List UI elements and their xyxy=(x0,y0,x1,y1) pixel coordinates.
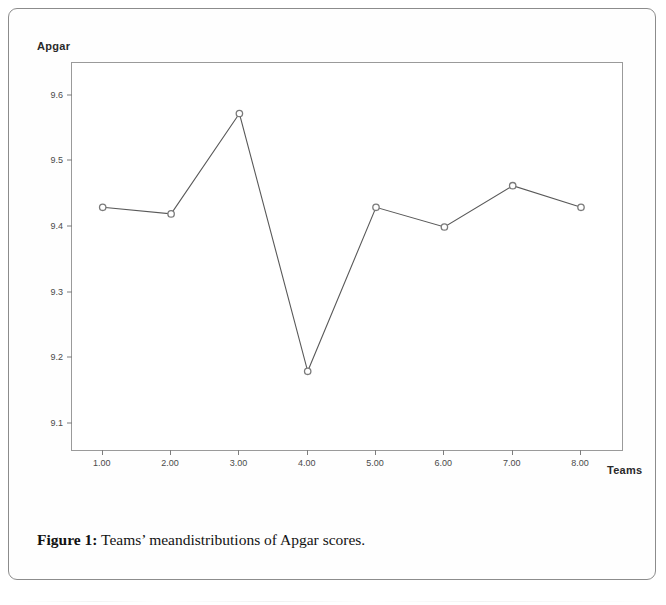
chart-y-axis-title: Apgar xyxy=(37,40,70,52)
y-tick-label: 9.6 xyxy=(29,90,63,100)
y-tick-label: 9.3 xyxy=(29,287,63,297)
x-tick-label: 5.00 xyxy=(355,458,395,468)
chart-series-svg xyxy=(72,63,622,450)
x-tick-label: 4.00 xyxy=(287,458,327,468)
x-tick-label: 7.00 xyxy=(492,458,532,468)
figure-caption-label: Figure 1: xyxy=(37,531,97,548)
x-tick-mark xyxy=(512,450,513,455)
figure-caption-text: Teams’ meandistributions of Apgar scores… xyxy=(97,531,365,548)
x-tick-mark xyxy=(307,450,308,455)
data-point xyxy=(236,110,242,116)
x-tick-mark xyxy=(238,450,239,455)
data-point xyxy=(510,183,516,189)
x-tick-mark xyxy=(580,450,581,455)
data-point xyxy=(100,204,106,210)
chart-plot-area xyxy=(71,62,623,451)
line-series-markers xyxy=(100,110,585,374)
x-tick-label: 8.00 xyxy=(560,458,600,468)
x-tick-mark xyxy=(443,450,444,455)
data-point xyxy=(578,204,584,210)
y-tick-mark xyxy=(67,357,72,358)
x-tick-mark xyxy=(170,450,171,455)
y-tick-mark xyxy=(67,160,72,161)
y-tick-mark xyxy=(67,225,72,226)
document-page: Apgar 9.69.59.49.39.29.1 1.002.003.004.0… xyxy=(8,8,656,580)
figure-caption: Figure 1: Teams’ meandistributions of Ap… xyxy=(37,530,627,550)
x-tick-label: 6.00 xyxy=(423,458,463,468)
data-point xyxy=(305,368,311,374)
y-tick-label: 9.1 xyxy=(29,418,63,428)
scan-artifact-line xyxy=(19,601,659,602)
figure-chart: Apgar 9.69.59.49.39.29.1 1.002.003.004.0… xyxy=(9,9,655,507)
x-tick-label: 1.00 xyxy=(82,458,122,468)
y-tick-mark xyxy=(67,94,72,95)
x-tick-label: 2.00 xyxy=(150,458,190,468)
line-series-apgar xyxy=(103,114,581,372)
x-tick-label: 3.00 xyxy=(218,458,258,468)
chart-x-axis-title: Teams xyxy=(607,464,643,476)
y-tick-label: 9.2 xyxy=(29,352,63,362)
y-tick-label: 9.4 xyxy=(29,221,63,231)
data-point xyxy=(168,211,174,217)
x-tick-mark xyxy=(375,450,376,455)
data-point xyxy=(441,224,447,230)
y-tick-label: 9.5 xyxy=(29,155,63,165)
y-tick-mark xyxy=(67,422,72,423)
data-point xyxy=(373,204,379,210)
x-tick-mark xyxy=(102,450,103,455)
y-tick-mark xyxy=(67,291,72,292)
